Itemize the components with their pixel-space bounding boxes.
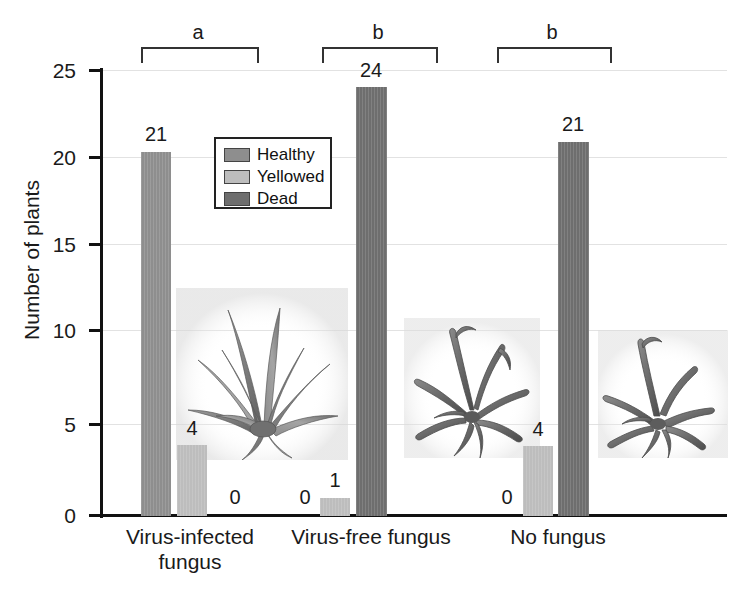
- bar-texture: [141, 152, 171, 516]
- bar-value-group-2-healthy: 0: [285, 487, 325, 507]
- y-axis-title: Number of plants: [20, 110, 44, 410]
- significance-letter-group-2: b: [358, 22, 398, 42]
- bar-value-group-3-dead: 21: [553, 114, 593, 134]
- y-tick-20: [89, 156, 102, 159]
- significance-bracket-group-1: [141, 47, 259, 63]
- gridline-25: [102, 70, 727, 71]
- bar-group-1-yellowed[interactable]: [177, 445, 207, 516]
- legend-label-healthy: Healthy: [257, 146, 315, 163]
- bar-value-group-1-yellowed: 4: [172, 418, 212, 438]
- bar-texture: [356, 87, 387, 516]
- bar-group-3-yellowed[interactable]: [523, 446, 553, 516]
- y-tick-5: [89, 423, 102, 426]
- legend-item-dead[interactable]: Dead: [224, 188, 330, 209]
- chart-legend: Healthy Yellowed Dead: [214, 137, 332, 209]
- gridline-20: [102, 157, 727, 158]
- category-label-group-3-line1: No fungus: [478, 524, 638, 549]
- y-tick-label-5: 5: [36, 414, 76, 435]
- bar-value-group-3-yellowed: 4: [518, 419, 558, 439]
- category-label-group-3: No fungus: [478, 524, 638, 549]
- y-tick-15: [89, 243, 102, 246]
- category-label-group-2-line1: Virus-free fungus: [278, 524, 464, 549]
- y-tick-label-0: 0: [36, 505, 76, 526]
- legend-swatch-yellowed-icon: [224, 170, 250, 184]
- bar-group-1-healthy[interactable]: [141, 152, 171, 516]
- y-tick-10: [89, 329, 102, 332]
- bar-group-2-dead[interactable]: [356, 87, 387, 516]
- significance-letter-group-1: a: [178, 22, 218, 42]
- bar-value-group-1-dead: 0: [215, 487, 255, 507]
- significance-letter-group-3: b: [532, 22, 572, 42]
- bar-value-group-1-healthy: 21: [136, 124, 176, 144]
- gridline-10: [102, 330, 727, 331]
- y-axis-line: [100, 68, 103, 518]
- category-label-group-2: Virus-free fungus: [278, 524, 464, 549]
- legend-item-yellowed[interactable]: Yellowed: [224, 166, 330, 187]
- y-tick-25: [89, 69, 102, 72]
- category-label-group-1: Virus-infected fungus: [105, 524, 275, 574]
- bar-value-group-2-dead: 24: [351, 60, 391, 80]
- bar-chart-figure: 25 20 15 10 5 0 Number of plants a b b: [0, 0, 739, 595]
- y-tick-0: [89, 514, 102, 517]
- legend-swatch-dead-icon: [224, 192, 250, 206]
- bar-group-3-dead[interactable]: [558, 142, 589, 516]
- legend-label-dead: Dead: [257, 190, 298, 207]
- legend-swatch-healthy-icon: [224, 148, 250, 162]
- bar-value-group-2-yellowed: 1: [315, 470, 355, 490]
- legend-label-yellowed: Yellowed: [257, 168, 324, 185]
- category-label-group-1-line2: fungus: [105, 549, 275, 574]
- bar-texture: [523, 446, 553, 516]
- category-label-group-1-line1: Virus-infected: [105, 524, 275, 549]
- gridline-15: [102, 244, 727, 245]
- dead-plant-photo-2: [598, 330, 728, 458]
- bar-texture: [558, 142, 589, 516]
- significance-bracket-group-3: [497, 47, 612, 63]
- bar-texture: [320, 498, 350, 516]
- bar-value-group-3-healthy: 0: [487, 487, 527, 507]
- bar-group-2-yellowed[interactable]: [320, 498, 350, 516]
- legend-item-healthy[interactable]: Healthy: [224, 144, 330, 165]
- y-tick-label-25: 25: [36, 60, 76, 81]
- bar-texture: [177, 445, 207, 516]
